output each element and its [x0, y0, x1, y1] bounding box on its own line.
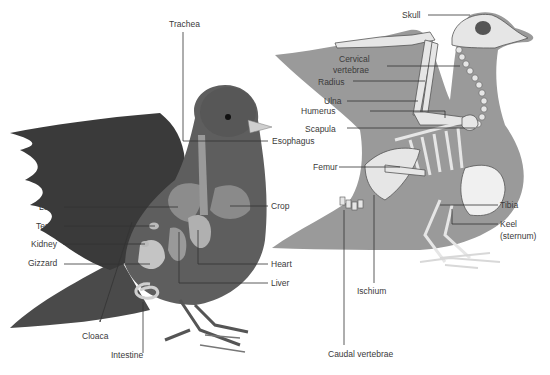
bird-anatomy-diagram: Trachea Esophagus Lung Testis Kidney Giz… [0, 0, 550, 375]
pigeon-head [200, 87, 256, 137]
label-cloaca: Cloaca [82, 331, 108, 341]
label-heart: Heart [271, 259, 292, 269]
label-radius: Radius [318, 77, 344, 87]
label-lung: Lung [39, 202, 58, 212]
label-intestine: Intestine [111, 350, 143, 360]
label-skull: Skull [402, 10, 420, 20]
label-cervical-line1: Cervical [339, 54, 370, 64]
label-cervical-line2: vertebrae [333, 65, 369, 75]
label-esophagus: Esophagus [272, 136, 315, 146]
label-humerus: Humerus [301, 106, 335, 116]
label-gizzard: Gizzard [28, 258, 57, 268]
label-kidney: Kidney [31, 239, 57, 249]
label-liver: Liver [271, 278, 289, 288]
label-ulna: Ulna [324, 96, 341, 106]
label-tibia: Tibia [500, 200, 518, 210]
eye [225, 114, 231, 120]
label-testis: Testis [36, 221, 58, 231]
label-keel-line2: (sternum) [500, 231, 536, 241]
beak [248, 120, 272, 133]
label-crop: Crop [271, 201, 289, 211]
label-ischium: Ischium [357, 286, 386, 296]
label-femur: Femur [313, 162, 338, 172]
organ-figure [0, 0, 550, 375]
label-caudal-vertebrae: Caudal vertebrae [328, 349, 393, 359]
label-scapula: Scapula [305, 124, 336, 134]
label-keel-line1: Keel [500, 219, 517, 229]
label-trachea: Trachea [169, 19, 200, 29]
